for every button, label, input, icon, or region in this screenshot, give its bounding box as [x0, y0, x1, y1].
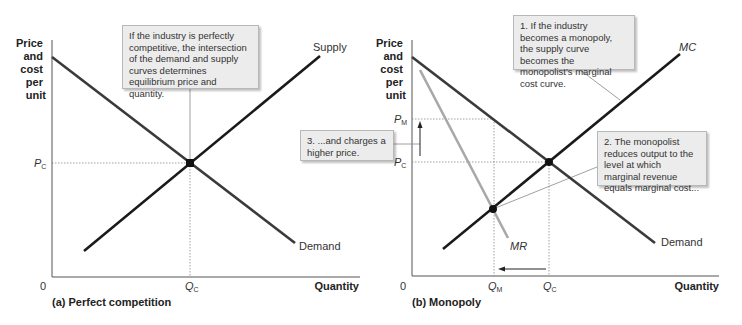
x-axis-label-a: Quantity [314, 280, 359, 292]
x-axis-label-b: Quantity [674, 280, 719, 292]
arrow-up-icon [418, 121, 423, 128]
competitive-point-b [545, 158, 553, 166]
qc-label-b: QC [543, 280, 557, 293]
pc-label-b: PC [394, 156, 406, 169]
origin-label-b: 0 [400, 280, 406, 292]
pm-label: PM [394, 113, 407, 126]
caption-a: (a) Perfect competition [52, 296, 171, 308]
mr-label: MR [510, 240, 527, 252]
qc-label-a: QC [185, 280, 199, 293]
mr-mc-point [489, 205, 497, 213]
mc-label: MC [679, 41, 696, 53]
qm-label: QM [488, 280, 503, 293]
callout-monopoly-output: 2. The monopolist reduces output to the … [597, 131, 707, 186]
callout-monopoly-mc: 1. If the industry becomes a monopoly, t… [513, 15, 635, 70]
demand-label-b: Demand [661, 236, 703, 248]
callout-monopoly-price: 3. ...and charges a higher price. [300, 130, 394, 161]
equilibrium-point-a [186, 159, 194, 167]
caption-b: (b) Monopoly [412, 296, 482, 308]
pc-label-a: PC [34, 157, 46, 170]
demand-label-a: Demand [299, 240, 341, 252]
origin-label-a: 0 [40, 280, 46, 292]
arrow-left-icon [498, 267, 505, 272]
y-axis-label-b: Price and cost per unit [376, 37, 406, 101]
supply-label-a: Supply [313, 41, 347, 53]
y-axis-label-a: Price and cost per unit [16, 37, 46, 101]
callout-perfect-competition: If the industry is perfectly competitive… [122, 25, 259, 89]
